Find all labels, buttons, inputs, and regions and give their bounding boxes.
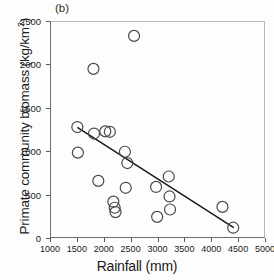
data-point (228, 222, 239, 233)
x-tick-label: 1500 (67, 244, 87, 254)
data-point (165, 204, 176, 215)
data-point (217, 201, 228, 212)
x-tick-label: 2500 (121, 244, 141, 254)
data-point (151, 181, 162, 192)
x-tick-label: 1000 (40, 244, 60, 254)
y-tick-label: 0 (0, 233, 41, 244)
y-tick-label: 2500 (0, 16, 41, 27)
x-tick-label: 5000 (255, 244, 274, 254)
data-point (152, 211, 163, 222)
y-tick-label: 1500 (0, 102, 41, 113)
data-point (122, 158, 133, 169)
data-point (88, 63, 99, 74)
x-axis-title: Rainfall (mm) (0, 258, 274, 274)
data-point (119, 146, 130, 157)
data-point (129, 30, 140, 41)
data-point (89, 128, 100, 139)
data-point (164, 191, 175, 202)
plot-area (50, 21, 265, 238)
y-axis-title: Primate community biomass (kg/km2) (16, 16, 33, 236)
data-points-layer (51, 22, 266, 239)
y-tick-label: 2000 (0, 59, 41, 70)
scatter-plot-figure: (b) Primate community biomass (kg/km2) R… (0, 0, 274, 280)
x-tick-label: 3000 (147, 244, 167, 254)
data-point (72, 147, 83, 158)
x-tick-label: 4000 (201, 244, 221, 254)
data-point (93, 175, 104, 186)
data-point (120, 182, 131, 193)
data-point (72, 122, 83, 133)
x-tick-label: 4500 (228, 244, 248, 254)
x-tick-label: 2000 (94, 244, 114, 254)
x-tick-label: 3500 (174, 244, 194, 254)
y-tick-label: 500 (0, 189, 41, 200)
panel-label: (b) (55, 2, 69, 14)
y-tick-label: 1000 (0, 146, 41, 157)
data-point (163, 171, 174, 182)
